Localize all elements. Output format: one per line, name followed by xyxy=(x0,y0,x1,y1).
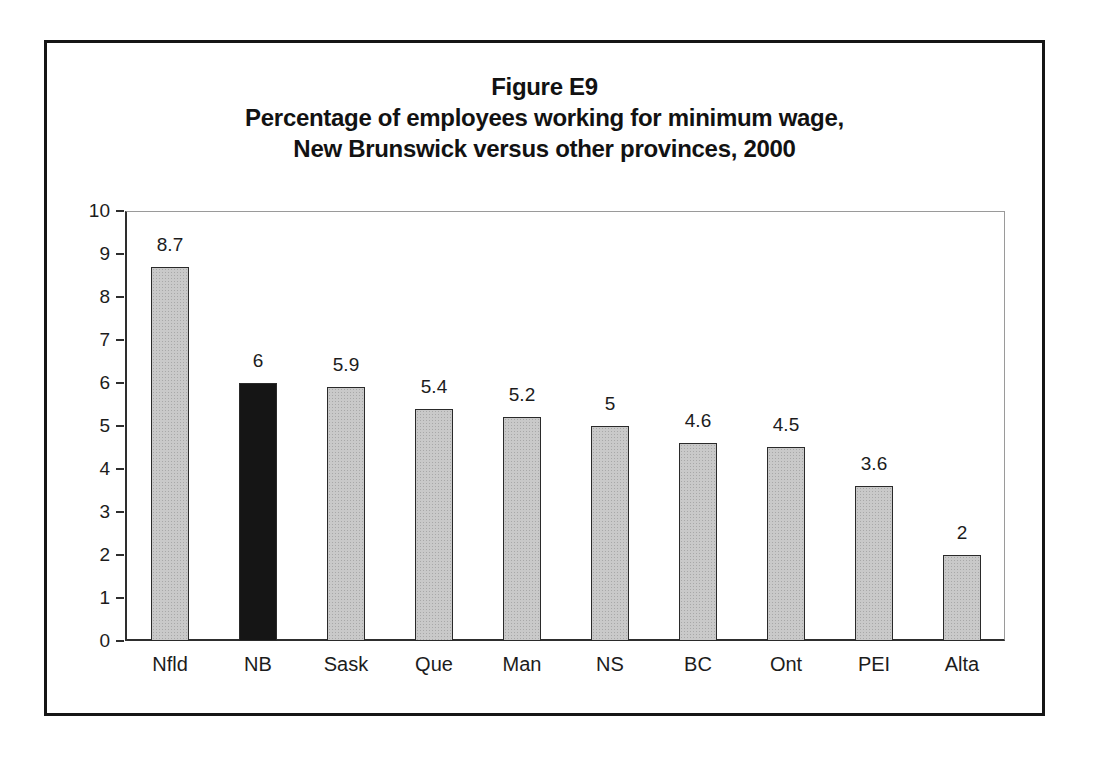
y-tick-label: 9 xyxy=(60,243,110,265)
x-axis-label: NS xyxy=(565,653,655,676)
x-axis-label: Alta xyxy=(917,653,1007,676)
y-tick-mark xyxy=(116,210,124,212)
bar-value-label: 2 xyxy=(927,522,997,544)
bar-value-label: 8.7 xyxy=(135,234,205,256)
bar-nb xyxy=(239,383,277,641)
y-tick-label: 10 xyxy=(60,200,110,222)
x-axis-label: PEI xyxy=(829,653,919,676)
y-tick-mark xyxy=(116,468,124,470)
bar-sask xyxy=(327,387,365,641)
y-tick-label: 7 xyxy=(60,329,110,351)
figure-title: Figure E9 Percentage of employees workin… xyxy=(47,71,1042,164)
y-tick-label: 5 xyxy=(60,415,110,437)
y-tick-mark xyxy=(116,296,124,298)
y-tick-mark xyxy=(116,425,124,427)
x-axis-label: Man xyxy=(477,653,567,676)
y-tick-label: 4 xyxy=(60,458,110,480)
y-tick-mark xyxy=(116,253,124,255)
y-tick-mark xyxy=(116,382,124,384)
x-axis-label: Nfld xyxy=(125,653,215,676)
y-tick-mark xyxy=(116,597,124,599)
bar-value-label: 6 xyxy=(223,350,293,372)
bar-value-label: 4.5 xyxy=(751,414,821,436)
x-axis-label: NB xyxy=(213,653,303,676)
x-axis-label: Que xyxy=(389,653,479,676)
bar-alta xyxy=(943,555,981,641)
bar-value-label: 5.2 xyxy=(487,384,557,406)
y-tick-mark xyxy=(116,640,124,642)
y-tick-mark xyxy=(116,339,124,341)
scanned-page: { "figure": { "title_line1": "Figure E9"… xyxy=(0,0,1096,759)
bar-man xyxy=(503,417,541,641)
bar-bc xyxy=(679,443,717,641)
y-tick-mark xyxy=(116,554,124,556)
figure-title-line1: Figure E9 xyxy=(47,71,1042,102)
x-axis-label: Ont xyxy=(741,653,831,676)
y-tick-label: 1 xyxy=(60,587,110,609)
bar-value-label: 3.6 xyxy=(839,453,909,475)
bar-value-label: 5.9 xyxy=(311,354,381,376)
bar-value-label: 4.6 xyxy=(663,410,733,432)
bar-que xyxy=(415,409,453,641)
y-tick-label: 6 xyxy=(60,372,110,394)
y-tick-mark xyxy=(116,511,124,513)
y-tick-label: 3 xyxy=(60,501,110,523)
y-tick-label: 0 xyxy=(60,630,110,652)
y-tick-label: 8 xyxy=(60,286,110,308)
x-axis-label: Sask xyxy=(301,653,391,676)
figure-title-line2: Percentage of employees working for mini… xyxy=(47,102,1042,133)
y-tick-label: 2 xyxy=(60,544,110,566)
bar-value-label: 5 xyxy=(575,393,645,415)
bar-ns xyxy=(591,426,629,641)
bar-ont xyxy=(767,447,805,641)
bar-value-label: 5.4 xyxy=(399,376,469,398)
bar-nfld xyxy=(151,267,189,641)
x-axis-label: BC xyxy=(653,653,743,676)
bar-pei xyxy=(855,486,893,641)
figure-title-line3: New Brunswick versus other provinces, 20… xyxy=(47,133,1042,164)
